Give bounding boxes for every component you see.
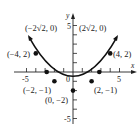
point-0-neg2 [71, 88, 76, 93]
label-2-neg1: (2, −1) [94, 85, 117, 95]
x-tick-label-5: 5 [117, 75, 121, 84]
point-neg2-neg1 [52, 79, 57, 84]
point-2root2-0 [97, 70, 102, 75]
y-tick-label-5: 5 [67, 22, 71, 31]
y-axis-label: y [65, 11, 70, 20]
y-tick-label-neg5: -5 [64, 115, 71, 124]
label-0-neg2: (0, −2) [45, 95, 68, 105]
curve-arrow-left-icon [28, 35, 33, 41]
x-axis-label: x [130, 61, 135, 70]
label-neg2root2-0: (−2√2, 0) [25, 23, 57, 33]
label-2root2-0: (2√2, 0) [79, 23, 106, 33]
label-neg4-2: (−4, 2) [7, 49, 30, 59]
label-4-2: (4, 2) [113, 49, 132, 59]
label-neg2-neg1: (−2, −1) [23, 85, 51, 95]
x-axis-arrow-icon [131, 70, 137, 74]
point-2-neg1 [89, 79, 94, 84]
parabola-graph: x y -5 0 5 5 -5 (−2√2, 0) (2√2, 0) (−4, … [0, 0, 140, 127]
point-4-2 [108, 51, 113, 56]
point-neg4-2 [34, 51, 39, 56]
x-tick-label-neg5: -5 [22, 75, 29, 84]
curve-arrow-right-icon [113, 35, 118, 41]
point-neg2root2-0 [44, 70, 49, 75]
y-axis-arrow-icon [71, 13, 75, 19]
